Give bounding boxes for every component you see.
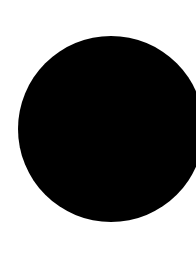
black-circle-shape bbox=[18, 36, 196, 222]
image-canvas bbox=[0, 0, 196, 264]
